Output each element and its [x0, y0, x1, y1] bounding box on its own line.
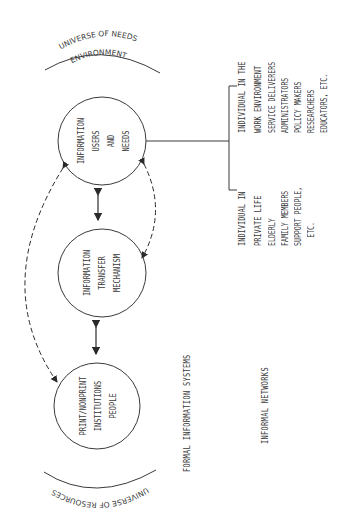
work-heading-2: WORK ENVIRONMENT [250, 62, 266, 133]
node-transfer-line-1: INFORMATION [80, 250, 95, 296]
diagram-canvas: UNIVERSE OF NEEDS ENVIRONMENT UNIVERSE O… [0, 0, 354, 512]
work-item: RESEARCHERS [305, 62, 318, 133]
node-resources-line-3: PEOPLE [106, 377, 121, 436]
node-resources-label: PRINT/NONPRINT INSTITUTIONS PEOPLE [76, 370, 121, 442]
node-users-line-3: AND [104, 118, 119, 164]
private-item: SUPPORT PEOPLE, [292, 187, 305, 246]
group-work-environment: INDIVIDUAL IN THE WORK ENVIRONMENT SERVI… [234, 46, 331, 133]
node-users-line-4: NEEDS [119, 118, 134, 164]
node-users-label: INFORMATION USERS AND NEEDS [74, 113, 134, 169]
work-item: POLICY MAKERS [292, 62, 305, 133]
private-item: ETC. [305, 187, 318, 246]
node-resources-line-1: PRINT/NONPRINT [76, 377, 91, 436]
work-item: ADMINISTRATORS [279, 62, 292, 133]
private-item: ELDERLY [266, 187, 279, 246]
node-transfer-line-3: MECHANISM [110, 250, 125, 296]
work-item: SERVICE DELIVERERS [266, 62, 279, 133]
node-resources-line-2: INSTITUTIONS [91, 377, 106, 436]
private-heading-2: PRIVATE LIFE [250, 187, 266, 246]
formal-information-systems-label: FORMAL INFORMATION SYSTEMS [182, 354, 192, 472]
work-heading-1: INDIVIDUAL IN THE [234, 62, 250, 133]
work-item: EDUCATORS, ETC. [318, 62, 331, 133]
private-heading-1: INDIVIDUAL IN [234, 187, 250, 246]
informal-networks-label: INFORMAL NETWORKS [260, 367, 270, 444]
group-private-life: INDIVIDUAL IN PRIVATE LIFE ELDERLY FAMIL… [234, 174, 318, 246]
private-item: FAMILY MEMBERS [279, 187, 292, 246]
node-transfer-label: INFORMATION TRANSFER MECHANISM [80, 245, 125, 301]
node-users-line-2: USERS [89, 118, 104, 164]
node-users-line-1: INFORMATION [74, 118, 89, 164]
node-transfer-line-2: TRANSFER [95, 250, 110, 296]
universe-of-resources-text: UNIVERSE OF RESOURCES [50, 486, 150, 510]
